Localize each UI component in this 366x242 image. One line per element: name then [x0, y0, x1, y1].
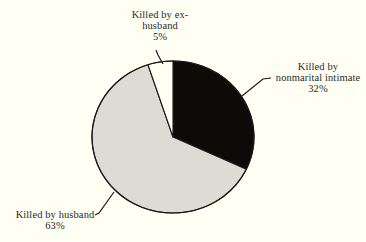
label-ex-husband-line1: Killed by ex-	[128, 9, 192, 20]
label-nonmarital-pct: 32%	[268, 83, 366, 94]
label-ex-husband-pct: 5%	[128, 31, 192, 42]
label-nonmarital-line1: Killed by	[268, 61, 366, 72]
label-husband-pct: 63%	[12, 220, 98, 231]
label-husband: Killed by husband 63%	[12, 209, 98, 231]
label-ex-husband-line2: husband	[128, 20, 192, 31]
label-nonmarital: Killed by nonmarital intimate 32%	[268, 61, 366, 94]
leader-line-nonmarital	[242, 78, 271, 96]
pie-slices	[92, 61, 254, 213]
label-ex-husband: Killed by ex- husband 5%	[128, 9, 192, 42]
label-husband-line1: Killed by husband	[12, 209, 98, 220]
label-nonmarital-line2: nonmarital intimate	[268, 72, 366, 83]
